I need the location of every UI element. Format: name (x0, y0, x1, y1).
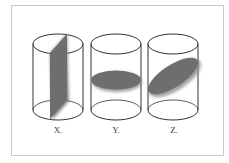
cylinder-z (143, 34, 207, 120)
cylinder-x (33, 34, 83, 120)
cylinder-y (91, 34, 142, 120)
label-y: Y. (106, 125, 126, 135)
cylinders-diagram (0, 0, 229, 163)
label-x: X. (48, 125, 68, 135)
label-z: Z. (164, 125, 184, 135)
